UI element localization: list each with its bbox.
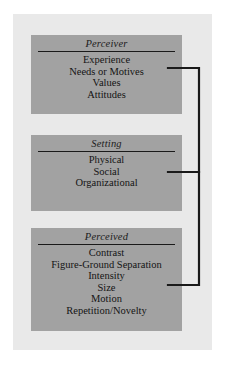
list-item: Experience bbox=[31, 54, 182, 66]
list-item: Repetition/Novelty bbox=[31, 305, 182, 317]
list-item: Organizational bbox=[31, 177, 182, 189]
box-title-perceived: Perceived bbox=[31, 231, 182, 243]
diagram-canvas: Perceiver Experience Needs or Motives Va… bbox=[0, 0, 228, 368]
title-rule bbox=[38, 51, 175, 52]
item-list-perceiver: Experience Needs or Motives Values Attit… bbox=[31, 54, 182, 100]
list-item: Attitudes bbox=[31, 89, 182, 101]
list-item: Motion bbox=[31, 293, 182, 305]
list-item: Contrast bbox=[31, 247, 182, 259]
item-list-setting: Physical Social Organizational bbox=[31, 154, 182, 189]
list-item: Size bbox=[31, 282, 182, 294]
title-rule bbox=[38, 244, 175, 245]
list-item: Intensity bbox=[31, 270, 182, 282]
title-rule bbox=[38, 151, 175, 152]
list-item: Physical bbox=[31, 154, 182, 166]
list-item: Figure-Ground Separation bbox=[31, 259, 182, 271]
box-title-setting: Setting bbox=[31, 138, 182, 150]
item-list-perceived: Contrast Figure-Ground Separation Intens… bbox=[31, 247, 182, 317]
list-item: Social bbox=[31, 166, 182, 178]
concept-box-setting: Setting Physical Social Organizational bbox=[31, 135, 182, 211]
list-item: Values bbox=[31, 77, 182, 89]
box-title-perceiver: Perceiver bbox=[31, 38, 182, 50]
list-item: Needs or Motives bbox=[31, 66, 182, 78]
concept-box-perceiver: Perceiver Experience Needs or Motives Va… bbox=[31, 35, 182, 114]
concept-box-perceived: Perceived Contrast Figure-Ground Separat… bbox=[31, 228, 182, 331]
